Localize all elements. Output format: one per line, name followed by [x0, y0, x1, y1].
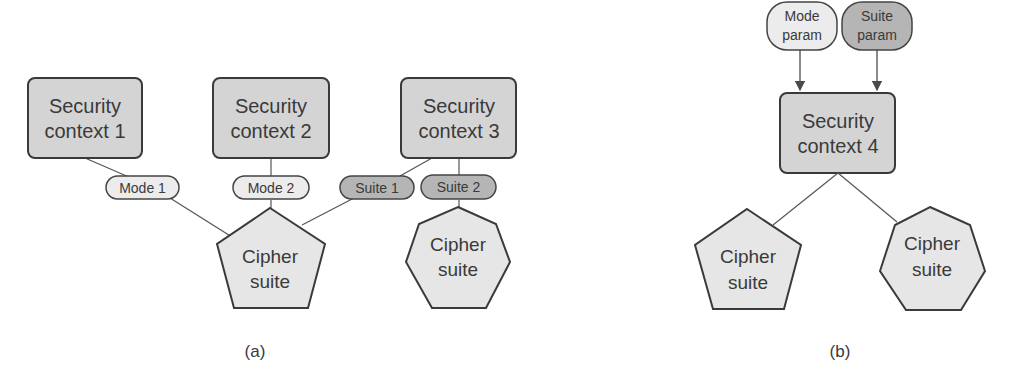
panel-b-arrows: [800, 50, 877, 90]
caption-b: (b): [830, 342, 851, 361]
cipher-suite-heptagon-a: Cipher suite: [406, 207, 510, 308]
security-context-1: Security context 1: [28, 78, 142, 158]
context-label-line1: Security: [802, 110, 874, 132]
pill-label-line1: Mode: [784, 8, 819, 24]
context-label-line2: context 2: [230, 120, 311, 142]
cipher-label-line2: suite: [438, 259, 478, 280]
context-label-line2: context 3: [418, 120, 499, 142]
pill-label: Suite 1: [355, 180, 399, 196]
security-context-2: Security context 2: [213, 78, 329, 158]
mode-2-pill: Mode 2: [233, 176, 309, 199]
mode-1-pill: Mode 1: [106, 176, 179, 199]
mode-param-pill: Mode param: [767, 2, 837, 50]
cipher-suite-pentagon-a: Cipher suite: [217, 208, 325, 308]
context-label-line1: Security: [423, 95, 495, 117]
security-context-4: Security context 4: [780, 93, 895, 173]
cipher-label-line2: suite: [728, 272, 768, 293]
context-label-line2: context 4: [797, 135, 878, 157]
cipher-suite-pentagon-b: Cipher suite: [695, 209, 801, 309]
cipher-label-line1: Cipher: [720, 246, 777, 267]
cipher-label-line2: suite: [250, 271, 290, 292]
cipher-label-line1: Cipher: [430, 234, 487, 255]
context-label-line1: Security: [49, 95, 121, 117]
security-context-3: Security context 3: [401, 78, 516, 158]
context-label-line1: Security: [235, 95, 307, 117]
panel-b-connectors: [773, 173, 897, 225]
suite-param-pill: Suite param: [842, 2, 912, 50]
cipher-label-line1: Cipher: [242, 246, 299, 267]
pill-label-line1: Suite: [861, 8, 893, 24]
caption-a: (a): [245, 342, 266, 361]
pill-label-line2: param: [782, 27, 822, 43]
suite-2-pill: Suite 2: [421, 175, 496, 199]
pill-label: Suite 2: [437, 179, 481, 195]
suite-1-pill: Suite 1: [340, 176, 414, 199]
diagram-canvas: Security context 1 Security context 2 Se…: [0, 0, 1011, 374]
context-label-line2: context 1: [44, 120, 125, 142]
cipher-suite-heptagon-b: Cipher suite: [880, 207, 985, 310]
cipher-label-line2: suite: [912, 259, 952, 280]
pill-label: Mode 1: [119, 180, 166, 196]
pill-label-line2: param: [857, 27, 897, 43]
cipher-label-line1: Cipher: [904, 233, 961, 254]
pill-label: Mode 2: [248, 180, 295, 196]
